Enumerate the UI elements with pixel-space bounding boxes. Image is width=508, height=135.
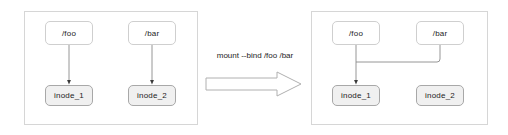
node-foo-after: /foo	[332, 21, 380, 45]
node-inode1-after: inode_1	[332, 85, 380, 106]
diagram-canvas: /foo /bar inode_1 inode_2 /foo /bar inod…	[0, 0, 508, 135]
node-foo-before: /foo	[45, 21, 93, 45]
node-inode2-after: inode_2	[416, 85, 464, 106]
node-bar-before: /bar	[128, 21, 176, 45]
block-arrow-right-icon	[205, 71, 303, 97]
transition-command-label: mount --bind /foo /bar	[207, 51, 303, 60]
node-inode1-before: inode_1	[45, 85, 93, 106]
node-bar-after: /bar	[416, 21, 464, 45]
node-inode2-before: inode_2	[128, 85, 176, 106]
